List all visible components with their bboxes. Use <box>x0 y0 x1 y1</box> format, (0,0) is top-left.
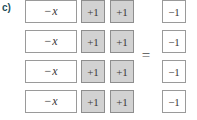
positive-one-tile: +1 <box>81 60 105 83</box>
positive-one-tile: +1 <box>110 0 134 23</box>
positive-one-tile: +1 <box>81 90 105 113</box>
negative-one-tile: −1 <box>162 0 186 23</box>
tile-row: −x +1 +1 −1 <box>0 90 197 114</box>
negative-x-tile: −x <box>25 60 77 83</box>
tile-row: −x +1 +1 −1 <box>0 30 197 54</box>
tile-row: −x +1 +1 −1 <box>0 60 197 84</box>
positive-one-tile: +1 <box>110 30 134 53</box>
variable-label: x <box>52 4 57 19</box>
variable-label: x <box>52 64 57 79</box>
minus-sign-icon: − <box>44 4 51 19</box>
tile-row: −x +1 +1 −1 <box>0 0 197 24</box>
equals-sign: = <box>138 47 154 63</box>
variable-label: x <box>52 34 57 49</box>
minus-sign-icon: − <box>44 34 51 49</box>
negative-x-tile: −x <box>25 30 77 53</box>
minus-sign-icon: − <box>44 64 51 79</box>
negative-one-tile: −1 <box>162 60 186 83</box>
algebra-tile-diagram: c) −x +1 +1 −1 −x +1 +1 −1 −x +1 +1 −1 −… <box>0 0 197 120</box>
negative-x-tile: −x <box>25 0 77 23</box>
negative-x-tile: −x <box>25 90 77 113</box>
positive-one-tile: +1 <box>110 90 134 113</box>
positive-one-tile: +1 <box>81 30 105 53</box>
positive-one-tile: +1 <box>81 0 105 23</box>
negative-one-tile: −1 <box>162 30 186 53</box>
negative-one-tile: −1 <box>162 90 186 113</box>
positive-one-tile: +1 <box>110 60 134 83</box>
variable-label: x <box>52 94 57 109</box>
minus-sign-icon: − <box>44 94 51 109</box>
